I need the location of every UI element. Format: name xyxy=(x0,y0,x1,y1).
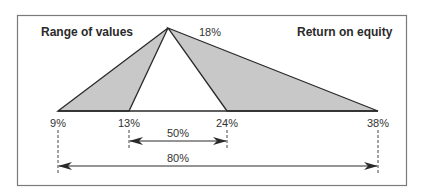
peak-label: 18% xyxy=(199,26,221,38)
title-range-of-values: Range of values xyxy=(41,25,133,39)
range-label-50: 50% xyxy=(167,127,189,139)
range-label-80: 80% xyxy=(167,152,189,164)
axis-label-38: 38% xyxy=(367,117,389,129)
axis-label-9: 9% xyxy=(50,117,66,129)
return-on-equity-diagram: Range of values Return on equity 18% 9% … xyxy=(0,0,423,196)
axis-label-13: 13% xyxy=(118,117,140,129)
axis-label-24: 24% xyxy=(216,117,238,129)
title-return-on-equity: Return on equity xyxy=(297,25,393,39)
